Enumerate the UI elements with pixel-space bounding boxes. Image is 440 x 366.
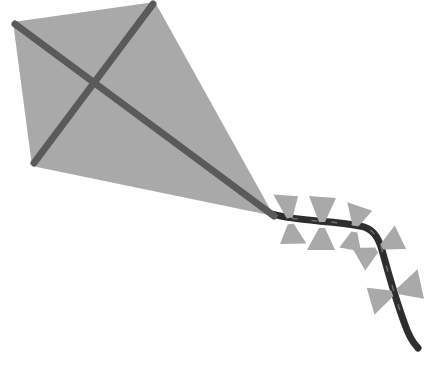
kite-illustration — [0, 0, 440, 366]
